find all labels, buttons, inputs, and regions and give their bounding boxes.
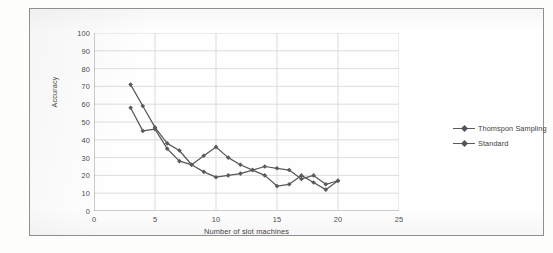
x-axis-tick-label: 25 — [384, 215, 414, 224]
data-point-marker — [250, 168, 255, 173]
legend-item-thompson-sampling[interactable]: Thomspon Sampling — [453, 121, 553, 136]
x-axis-tick-label: 15 — [262, 215, 292, 224]
data-point-marker — [141, 129, 146, 134]
legend-marker-icon — [453, 139, 475, 148]
y-axis-tick-label: 20 — [64, 171, 90, 180]
y-axis-tick-label: 60 — [64, 100, 90, 109]
x-axis-tick-labels: 0510152025 — [94, 215, 399, 227]
x-axis-tick-label: 0 — [79, 215, 109, 224]
y-axis-tick-label: 90 — [64, 46, 90, 55]
data-point-marker — [263, 164, 268, 169]
x-axis-tick-label: 5 — [140, 215, 170, 224]
series-1 — [128, 82, 340, 186]
y-axis-tick-label: 50 — [64, 118, 90, 127]
data-point-marker — [275, 166, 280, 171]
gridlines — [94, 33, 399, 211]
chart-svg — [94, 33, 399, 211]
x-axis-tick-label: 20 — [323, 215, 353, 224]
y-axis-tick-label: 80 — [64, 64, 90, 73]
y-axis-tick-label: 10 — [64, 189, 90, 198]
figure-caption — [150, 243, 450, 252]
chart-legend: Thomspon Sampling Standard — [453, 121, 553, 151]
y-axis-tick-label: 40 — [64, 135, 90, 144]
data-point-marker — [226, 173, 231, 178]
legend-item-standard[interactable]: Standard — [453, 136, 553, 151]
series-2 — [128, 105, 340, 191]
y-axis-tick-labels: 0102030405060708090100 — [60, 33, 90, 211]
legend-marker-icon — [453, 124, 475, 133]
y-axis-title: Accuracy — [50, 57, 59, 127]
y-axis-tick-label: 100 — [64, 29, 90, 38]
y-axis-tick-label: 30 — [64, 153, 90, 162]
data-point-marker — [128, 105, 133, 110]
legend-label-thompson-sampling: Thomspon Sampling — [478, 124, 547, 133]
x-axis-title: Number of slot machines — [94, 227, 399, 236]
legend-label-standard: Standard — [478, 139, 508, 148]
figure-page: Accuracy 0102030405060708090100 05101520… — [0, 0, 553, 253]
y-axis-tick-label: 70 — [64, 82, 90, 91]
x-axis-tick-label: 10 — [201, 215, 231, 224]
plot-area — [94, 33, 399, 211]
series-line — [131, 85, 338, 185]
figure-frame: Accuracy 0102030405060708090100 05101520… — [29, 8, 544, 236]
